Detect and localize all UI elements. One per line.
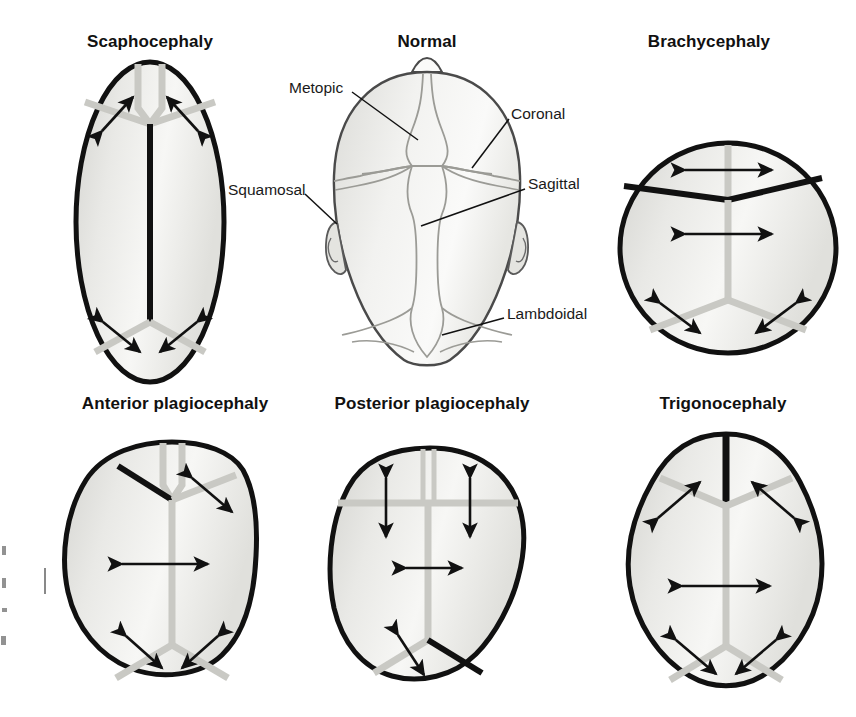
craniosynostosis-figure: Scaphocephaly Normal Brachycephaly Anter… <box>0 0 856 717</box>
skull-brachycephaly <box>620 143 836 353</box>
skull-scaphocephaly <box>76 62 224 382</box>
margin-scan-marks <box>1 546 46 645</box>
skull-normal <box>305 58 528 365</box>
leader-squamosal <box>305 194 337 224</box>
skull-anterior-plagiocephaly <box>65 442 257 678</box>
skull-trigonocephaly <box>628 434 822 686</box>
skull-illustrations-canvas <box>0 0 856 717</box>
skull-posterior-plagiocephaly <box>330 448 524 679</box>
nasal-notch <box>412 58 442 72</box>
